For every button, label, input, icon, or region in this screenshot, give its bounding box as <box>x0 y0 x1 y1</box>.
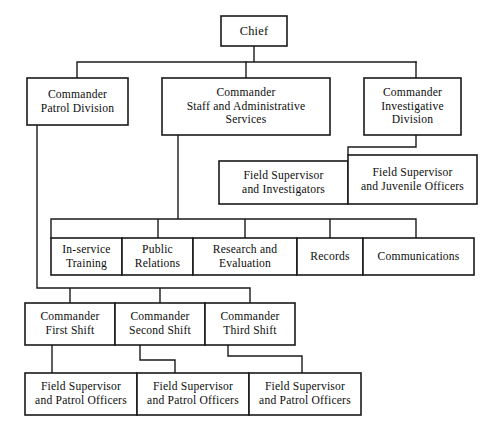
node-box-research[interactable] <box>193 238 297 275</box>
connector-cmd-invest-to-fs-juvenile <box>348 135 416 155</box>
node-box-in-service[interactable] <box>51 238 122 275</box>
node-box-fs-invest[interactable] <box>219 161 348 204</box>
node-boxes <box>25 16 477 415</box>
node-box-fs-patrol-2[interactable] <box>137 373 249 415</box>
org-chart-canvas <box>0 0 494 434</box>
node-box-fs-patrol-1[interactable] <box>25 373 137 415</box>
node-box-cmd-invest[interactable] <box>364 78 461 135</box>
connector-cmd-patrol-to-shift-commanders <box>37 125 250 303</box>
node-box-cmd-patrol[interactable] <box>27 78 128 125</box>
node-box-cmd-second[interactable] <box>115 303 205 345</box>
org-chart-diagram: ChiefCommanderPatrol DivisionCommanderSt… <box>0 0 494 434</box>
node-box-fs-patrol-3[interactable] <box>249 373 361 415</box>
node-box-cmd-staff[interactable] <box>162 78 330 135</box>
node-box-fs-juvenile[interactable] <box>348 155 477 204</box>
node-box-communications[interactable] <box>363 238 474 275</box>
node-box-public-rel[interactable] <box>122 238 193 275</box>
connector-cmd-third-to-fs-patrol-3 <box>228 345 302 373</box>
node-box-cmd-third[interactable] <box>205 303 295 345</box>
connector-cmd-second-to-fs-patrol-2 <box>140 345 175 373</box>
node-box-chief[interactable] <box>221 16 287 46</box>
node-box-cmd-first[interactable] <box>25 303 115 345</box>
node-box-records[interactable] <box>297 238 363 275</box>
